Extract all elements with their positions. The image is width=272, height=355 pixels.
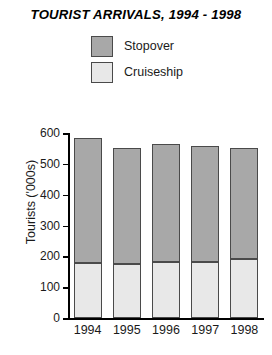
y-axis-tick-label: 100 bbox=[20, 280, 60, 294]
y-axis-line bbox=[68, 133, 70, 318]
plot-area: Tourists ('000s) 6005004003002001000 199… bbox=[68, 133, 264, 318]
y-axis-tick bbox=[63, 256, 68, 258]
y-axis-tick-label: 600 bbox=[20, 126, 60, 140]
x-axis-line bbox=[68, 318, 264, 320]
bar-segment-cruiseship bbox=[152, 262, 180, 318]
legend-item-cruiseship: Cruiseship bbox=[91, 59, 251, 85]
x-axis-tick-label: 1998 bbox=[218, 323, 270, 337]
y-axis-tick-label: 400 bbox=[20, 188, 60, 202]
y-axis-tick bbox=[63, 195, 68, 197]
legend-swatch-stopover bbox=[91, 36, 113, 57]
y-axis-tick bbox=[63, 226, 68, 228]
legend-item-stopover: Stopover bbox=[91, 33, 251, 59]
legend-swatch-cruiseship bbox=[91, 62, 113, 83]
tourist-arrivals-chart: TOURIST ARRIVALS, 1994 - 1998 Stopover C… bbox=[0, 0, 272, 355]
bar-segment-stopover bbox=[113, 148, 141, 264]
chart-legend: Stopover Cruiseship bbox=[91, 33, 251, 85]
legend-label-cruiseship: Cruiseship bbox=[124, 65, 183, 79]
bar-segment-cruiseship bbox=[230, 259, 258, 318]
chart-title: TOURIST ARRIVALS, 1994 - 1998 bbox=[0, 7, 272, 22]
bar-segment-stopover bbox=[74, 138, 102, 263]
y-axis-tick-label: 200 bbox=[20, 249, 60, 263]
legend-label-stopover: Stopover bbox=[124, 39, 174, 53]
y-axis-tick-label: 0 bbox=[20, 311, 60, 325]
bar-segment-cruiseship bbox=[74, 263, 102, 318]
y-axis-tick bbox=[63, 164, 68, 166]
y-axis-tick-label: 500 bbox=[20, 157, 60, 171]
y-axis-tick bbox=[63, 133, 68, 135]
bar-segment-stopover bbox=[191, 146, 219, 262]
y-axis-tick bbox=[63, 287, 68, 289]
y-axis-tick bbox=[63, 318, 68, 320]
y-axis-tick-labels: 6005004003002001000 bbox=[15, 133, 60, 318]
bar-segment-stopover bbox=[152, 144, 180, 262]
bar-segment-cruiseship bbox=[191, 262, 219, 318]
y-axis-tick-label: 300 bbox=[20, 219, 60, 233]
bar-segment-stopover bbox=[230, 148, 258, 260]
bar-segment-cruiseship bbox=[113, 264, 141, 318]
